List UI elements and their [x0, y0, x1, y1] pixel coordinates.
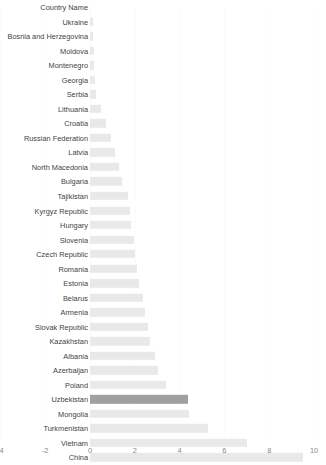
bar-label: Poland	[65, 380, 88, 389]
bar-label: Bosnia and Herzegovina	[7, 32, 88, 41]
bar[interactable]	[90, 18, 93, 26]
bar[interactable]	[90, 424, 208, 432]
bar-row[interactable]: Serbia	[0, 87, 326, 102]
bar[interactable]	[90, 148, 115, 156]
bar-row[interactable]: Azerbaijan	[0, 363, 326, 378]
bar-row[interactable]: Belarus	[0, 290, 326, 305]
bar-highlighted[interactable]	[90, 395, 188, 403]
bar-label: Croatia	[64, 119, 88, 128]
bar[interactable]	[90, 134, 111, 142]
bar[interactable]	[90, 221, 131, 229]
x-tick-label: 6	[222, 446, 226, 456]
bar-label: Azerbaijan	[53, 366, 88, 375]
bar[interactable]	[90, 235, 134, 243]
x-tick-label: 4	[178, 446, 182, 456]
bar-row[interactable]: Georgia	[0, 73, 326, 88]
bar[interactable]	[90, 264, 137, 272]
bar-label: Slovak Republic	[35, 322, 88, 331]
bar-label: Tajikistan	[58, 192, 88, 201]
bar-label: Czech Republic	[36, 250, 88, 259]
bar-label: Belarus	[63, 293, 88, 302]
bar-row[interactable]: Moldova	[0, 44, 326, 59]
bar-label: Armenia	[60, 308, 88, 317]
bar-row[interactable]: Uzbekistan	[0, 392, 326, 407]
bar-row[interactable]: Tajikistan	[0, 189, 326, 204]
bar[interactable]	[90, 352, 155, 360]
bar[interactable]	[90, 61, 94, 69]
bar[interactable]	[90, 105, 101, 113]
chart-header-row: Country Name	[0, 0, 326, 15]
bar-label: Montenegro	[49, 61, 88, 70]
bar[interactable]	[90, 308, 145, 316]
bar-row[interactable]: Hungary	[0, 218, 326, 233]
x-tick-label: 2	[133, 446, 137, 456]
bar-row[interactable]: Ukraine	[0, 15, 326, 30]
bar-label: Estonia	[63, 279, 88, 288]
bar[interactable]	[90, 192, 128, 200]
bar-row[interactable]: Bulgaria	[0, 174, 326, 189]
bar-row[interactable]: Bosnia and Herzegovina	[0, 29, 326, 44]
bar[interactable]	[90, 366, 158, 374]
bar-label: Russian Federation	[24, 133, 88, 142]
plot-area: Country Name UkraineBosnia and Herzegovi…	[0, 0, 326, 443]
x-tick-label: 10	[310, 446, 318, 456]
bar[interactable]	[90, 337, 150, 345]
bar-row[interactable]: Poland	[0, 378, 326, 393]
bar-row[interactable]: Turkmenistan	[0, 421, 326, 436]
bar-label: Mongolia	[58, 409, 88, 418]
bar[interactable]	[90, 381, 166, 389]
bar[interactable]	[90, 32, 93, 40]
bar-row[interactable]: North Macedonia	[0, 160, 326, 175]
bar-label: Albania	[63, 351, 88, 360]
bar-row[interactable]: Russian Federation	[0, 131, 326, 146]
bar-label: North Macedonia	[32, 162, 88, 171]
bar[interactable]	[90, 163, 119, 171]
bar[interactable]	[90, 293, 143, 301]
bar-row[interactable]: Czech Republic	[0, 247, 326, 262]
bar-row[interactable]: Lithuania	[0, 102, 326, 117]
bar-label: Romania	[58, 264, 88, 273]
bar-row[interactable]: Kazakhstan	[0, 334, 326, 349]
bar-row[interactable]: Romania	[0, 261, 326, 276]
bar-label: Latvia	[68, 148, 88, 157]
bar[interactable]	[90, 206, 130, 214]
bar-label: Hungary	[60, 221, 88, 230]
x-tick-label: 0	[88, 446, 92, 456]
bar-row[interactable]: Latvia	[0, 145, 326, 160]
bar-label: Serbia	[67, 90, 88, 99]
bar-row[interactable]: Albania	[0, 348, 326, 363]
bar-row[interactable]: Slovak Republic	[0, 319, 326, 334]
bar-label: Bulgaria	[61, 177, 88, 186]
bar-row[interactable]: Mongolia	[0, 407, 326, 422]
bar[interactable]	[90, 279, 139, 287]
bar[interactable]	[90, 119, 106, 127]
bar-label: Georgia	[62, 75, 88, 84]
x-axis: -4-20246810	[0, 443, 326, 461]
bar[interactable]	[90, 47, 94, 55]
bar[interactable]	[90, 76, 95, 84]
x-tick-label: -2	[42, 446, 49, 456]
bar-label: Slovenia	[60, 235, 88, 244]
y-axis-title: Country Name	[40, 3, 88, 12]
bar-label: Kazakhstan	[49, 337, 88, 346]
bar-label: Ukraine	[63, 17, 88, 26]
bar-label: Uzbekistan	[51, 395, 88, 404]
bar[interactable]	[90, 410, 189, 418]
bar-row[interactable]: Kyrgyz Republic	[0, 203, 326, 218]
x-tick-label: 8	[267, 446, 271, 456]
bar-row[interactable]: Croatia	[0, 116, 326, 131]
bar-row[interactable]: Estonia	[0, 276, 326, 291]
bar[interactable]	[90, 177, 122, 185]
bar-label: Moldova	[60, 46, 88, 55]
x-tick-label: -4	[0, 446, 4, 456]
bar[interactable]	[90, 322, 148, 330]
bar[interactable]	[90, 250, 135, 258]
bar-rows: Country Name UkraineBosnia and Herzegovi…	[0, 0, 326, 443]
bar-label: Turkmenistan	[44, 424, 89, 433]
bar-label: Lithuania	[58, 104, 88, 113]
bar-row[interactable]: Armenia	[0, 305, 326, 320]
bar-row[interactable]: Slovenia	[0, 232, 326, 247]
bar-row[interactable]: Montenegro	[0, 58, 326, 73]
bar[interactable]	[90, 90, 96, 98]
